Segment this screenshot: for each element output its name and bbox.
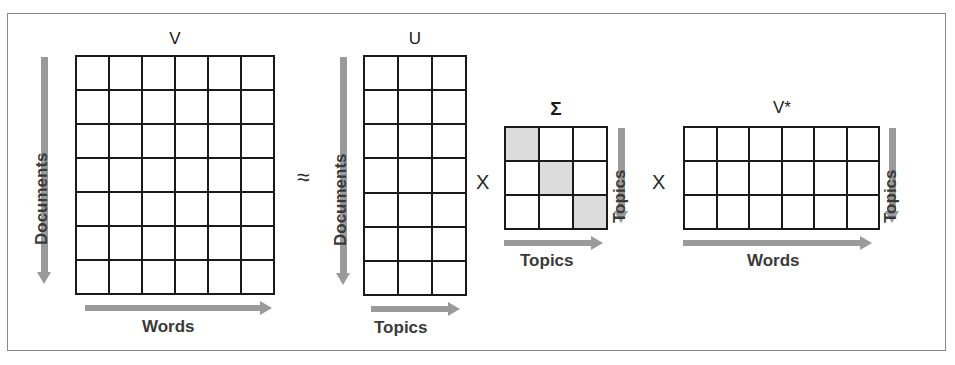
- matrix-cell: [433, 159, 467, 193]
- matrix-cell: [242, 261, 275, 295]
- matrix-cell: [685, 196, 718, 230]
- matrix-cell: [110, 91, 143, 125]
- matrix-cell: [110, 57, 143, 91]
- words-axis-arrow-vstar: [683, 240, 861, 246]
- matrix-cell: [399, 91, 433, 125]
- matrix-cell: [433, 125, 467, 159]
- matrix-cell: [718, 162, 751, 196]
- matrix-cell: [783, 128, 816, 162]
- matrix-cell: [433, 194, 467, 228]
- matrix-label-u: U: [380, 30, 450, 47]
- matrix-cell: [77, 193, 110, 227]
- matrix-cell: [750, 128, 783, 162]
- matrix-cell: [399, 125, 433, 159]
- matrix-cell: [399, 159, 433, 193]
- matrix-cell: [209, 193, 242, 227]
- matrix-cell: [399, 262, 433, 296]
- matrix-grid-vstar: [683, 126, 880, 230]
- matrix-cell: [750, 162, 783, 196]
- matrix-cell: [143, 261, 176, 295]
- topics-axis-arrow-sigma-cols: [504, 240, 592, 246]
- matrix-cell: [848, 162, 881, 196]
- matrix-cell: [209, 125, 242, 159]
- matrix-cell: [176, 57, 209, 91]
- matrix-cell: [540, 128, 574, 162]
- matrix-cell: [365, 91, 399, 125]
- matrix-cell: [110, 159, 143, 193]
- matrix-cell: [433, 57, 467, 91]
- matrix-cell: [209, 261, 242, 295]
- matrix-cell: [143, 91, 176, 125]
- matrix-cell: [365, 159, 399, 193]
- matrix-cell: [365, 262, 399, 296]
- topics-axis-arrow-u: [371, 306, 449, 312]
- matrix-cell: [783, 196, 816, 230]
- matrix-cell: [848, 196, 881, 230]
- matrix-cell: [399, 228, 433, 262]
- matrix-cell: [718, 196, 751, 230]
- matrix-cell: [399, 57, 433, 91]
- matrix-cell: [242, 227, 275, 261]
- matrix-cell: [176, 193, 209, 227]
- matrix-cell: [77, 227, 110, 261]
- axis-label-documents-u: Documents: [332, 153, 349, 246]
- matrix-cell: [110, 261, 143, 295]
- matrix-cell: [433, 262, 467, 296]
- axis-label-topics-sigma-rows: Topics: [611, 169, 628, 223]
- matrix-cell: [815, 162, 848, 196]
- matrix-cell: [750, 196, 783, 230]
- matrix-cell: [506, 162, 540, 196]
- operator-multiply-1: X: [476, 172, 489, 192]
- matrix-cell: [685, 162, 718, 196]
- matrix-cell: [209, 91, 242, 125]
- axis-label-topics-sigma-cols: Topics: [520, 252, 574, 269]
- matrix-cell: [176, 227, 209, 261]
- matrix-cell: [365, 194, 399, 228]
- matrix-cell: [176, 91, 209, 125]
- matrix-grid-v: [75, 55, 275, 295]
- matrix-cell: [574, 128, 608, 162]
- matrix-cell: [143, 57, 176, 91]
- matrix-cell: [143, 193, 176, 227]
- axis-label-words-vstar: Words: [747, 252, 800, 269]
- matrix-cell: [77, 57, 110, 91]
- operator-multiply-2: X: [652, 172, 665, 192]
- matrix-cell: [574, 162, 608, 196]
- matrix-cell: [77, 125, 110, 159]
- matrix-cell: [77, 91, 110, 125]
- matrix-cell: [242, 57, 275, 91]
- operator-approximately-equal: ≈: [297, 166, 310, 189]
- matrix-cell: [783, 162, 816, 196]
- matrix-cell: [540, 162, 574, 196]
- matrix-cell: [143, 159, 176, 193]
- matrix-cell: [77, 261, 110, 295]
- matrix-cell: [506, 128, 540, 162]
- matrix-cell: [176, 125, 209, 159]
- matrix-grid-sigma: [504, 126, 608, 230]
- matrix-cell: [540, 196, 574, 230]
- matrix-cell: [815, 128, 848, 162]
- matrix-cell: [110, 193, 143, 227]
- svd-decomposition-figure: V Documents Words ≈ U Documents Topics X…: [0, 0, 955, 365]
- matrix-grid-u: [363, 55, 467, 296]
- matrix-cell: [143, 227, 176, 261]
- matrix-cell: [242, 91, 275, 125]
- matrix-cell: [848, 128, 881, 162]
- matrix-cell: [77, 159, 110, 193]
- matrix-cell: [176, 159, 209, 193]
- matrix-cell: [242, 193, 275, 227]
- matrix-cell: [209, 57, 242, 91]
- axis-label-topics-vstar: Topics: [882, 169, 899, 223]
- matrix-cell: [433, 228, 467, 262]
- matrix-cell: [574, 196, 608, 230]
- matrix-cell: [433, 91, 467, 125]
- matrix-label-v: V: [140, 30, 210, 47]
- axis-label-documents-v: Documents: [33, 152, 50, 245]
- matrix-cell: [176, 261, 209, 295]
- matrix-cell: [209, 227, 242, 261]
- axis-label-topics-u: Topics: [374, 319, 428, 336]
- matrix-cell: [242, 159, 275, 193]
- matrix-label-sigma: Σ: [521, 99, 591, 118]
- axis-label-words-v: Words: [142, 318, 195, 335]
- matrix-cell: [506, 196, 540, 230]
